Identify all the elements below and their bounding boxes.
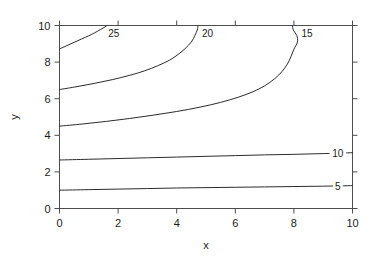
y-tick-label: 10 bbox=[38, 20, 50, 32]
contour-label-25: 25 bbox=[108, 28, 120, 39]
x-tick-label: 0 bbox=[56, 217, 62, 229]
x-axis-title: x bbox=[203, 239, 209, 251]
x-tick-label: 4 bbox=[174, 217, 180, 229]
contour-plot-figure: 0246810 0246810 510152025 x y bbox=[0, 0, 374, 261]
y-tick-label: 4 bbox=[44, 129, 50, 141]
x-tick-label: 10 bbox=[346, 217, 358, 229]
contour-label-10: 10 bbox=[332, 148, 344, 159]
contour-label-15: 15 bbox=[302, 28, 314, 39]
y-axis-title: y bbox=[8, 114, 20, 120]
y-tick-label: 6 bbox=[44, 93, 50, 105]
x-tick-label: 6 bbox=[232, 217, 238, 229]
y-tick-label: 2 bbox=[44, 166, 50, 178]
plot-canvas: 0246810 0246810 510152025 x y bbox=[0, 0, 374, 261]
y-tick-label: 8 bbox=[44, 56, 50, 68]
y-tick-label: 0 bbox=[44, 203, 50, 215]
x-tick-label: 8 bbox=[291, 217, 297, 229]
contour-label-5: 5 bbox=[335, 181, 341, 192]
contour-label-20: 20 bbox=[202, 28, 214, 39]
x-tick-label: 2 bbox=[115, 217, 121, 229]
